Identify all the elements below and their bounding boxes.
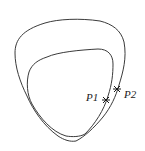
- outer-curve: [15, 19, 125, 141]
- inner-curve: [27, 49, 113, 137]
- diagram-canvas: P1 P2: [0, 0, 145, 151]
- curves-figure: P1 P2: [0, 0, 145, 151]
- p1-label: P1: [85, 91, 98, 103]
- p2-label: P2: [123, 88, 137, 100]
